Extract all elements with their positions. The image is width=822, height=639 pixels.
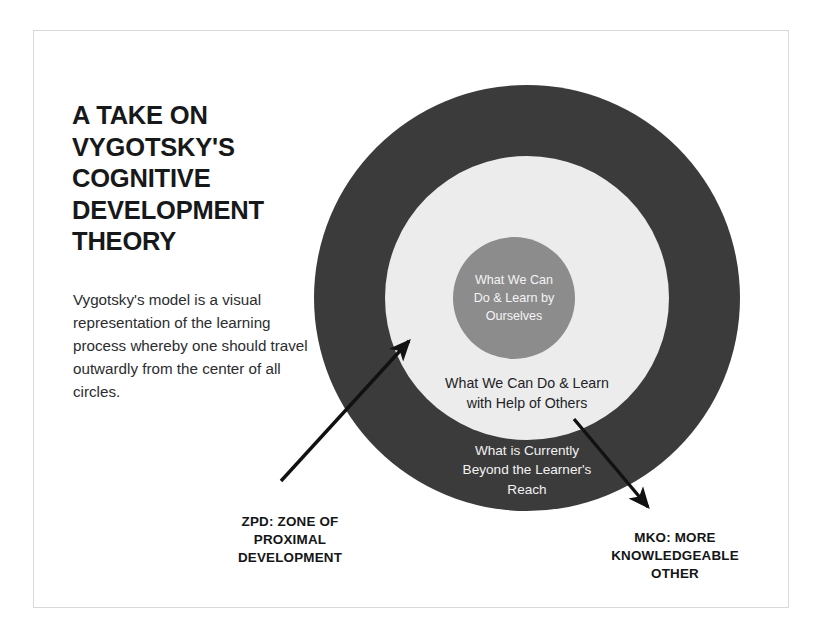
slide-canvas: What is Currently Beyond the Learner's R… (0, 0, 822, 639)
inner-circle-label: What We Can Do & Learn by Ourselves (434, 272, 594, 326)
zpd-callout-label: ZPD: Zone of Proximal Development (165, 513, 415, 567)
middle-ring-label: What We Can Do & Learn with Help of Othe… (412, 373, 642, 413)
intro-paragraph: Vygotsky's model is a visual representat… (73, 288, 318, 403)
outer-ring-label: What is Currently Beyond the Learner's R… (417, 441, 637, 499)
mko-callout-label: MKO: More Knowledgeable Other (550, 529, 800, 583)
page-title: A Take On Vygotsky's Cognitive Developme… (72, 100, 327, 258)
